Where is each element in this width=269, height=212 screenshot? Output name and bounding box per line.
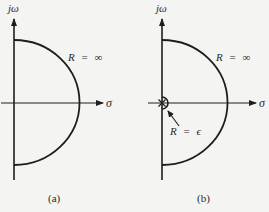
indent-pointer-arrow [168, 111, 179, 126]
figure-b: jω σ R = ∞ R = ϵ (b) [148, 2, 266, 205]
epsilon-symbol: ϵ [196, 125, 201, 137]
contour-radius-label: R = ∞ [67, 51, 102, 63]
radius-var: R [67, 51, 75, 63]
contour-radius-label: R = ∞ [215, 51, 250, 63]
figure-a: jω σ R = ∞ (a) [1, 2, 113, 205]
radius-var: R [169, 125, 177, 137]
imag-axis-label: jω [154, 2, 167, 14]
radius-var: R [215, 51, 223, 63]
infinity-symbol: ∞ [242, 51, 250, 63]
indent-radius-label: R = ϵ [169, 125, 201, 137]
caption-b: (b) [197, 192, 210, 205]
real-axis-label: σ [259, 96, 266, 110]
equals-sign: = [183, 125, 189, 137]
real-axis-label: σ [106, 96, 113, 110]
nyquist-contour-figure: jω σ R = ∞ (a) jω σ R = ∞ R = ϵ (b) [0, 0, 269, 212]
equals-sign: = [229, 51, 235, 63]
imag-axis-label: jω [6, 2, 19, 14]
infinity-symbol: ∞ [94, 51, 102, 63]
equals-sign: = [81, 51, 87, 63]
caption-a: (a) [48, 192, 61, 205]
